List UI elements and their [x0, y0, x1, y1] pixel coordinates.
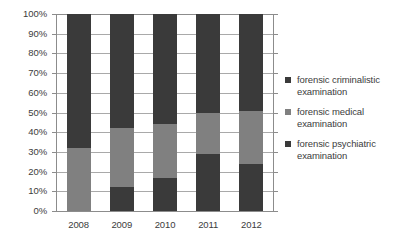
axis-tick [274, 132, 278, 133]
bar-segment [110, 187, 134, 211]
legend-swatch-medical [285, 109, 291, 115]
y-axis-tick-label: 0% [33, 206, 47, 216]
axis-tick [52, 152, 56, 153]
axis-tick [52, 211, 56, 212]
axis-tick [52, 172, 56, 173]
legend-swatch-psychiatric [285, 141, 291, 147]
y-axis-tick-label: 70% [28, 68, 47, 78]
legend-label: forensic medical [297, 106, 401, 118]
x-axis-tick-label: 2011 [198, 220, 218, 230]
y-axis: 0%10%20%30%40%50%60%70%80%90%100% [0, 0, 56, 245]
bar-segment [110, 128, 134, 187]
y-axis-tick-label: 40% [28, 127, 47, 137]
axis-tick [274, 172, 278, 173]
axis-tick [274, 211, 278, 212]
bar-segment [153, 178, 177, 211]
legend-label-continued: examination [297, 86, 401, 98]
axis-tick [52, 132, 56, 133]
bar-group [67, 14, 91, 211]
axis-tick [274, 113, 278, 114]
legend-swatch-criminalistic [285, 77, 291, 83]
legend-entry[interactable]: forensic criminalisticexamination [285, 74, 401, 97]
axis-tick [274, 93, 278, 94]
stacked-bar-chart: 0%10%20%30%40%50%60%70%80%90%100% 200820… [0, 0, 401, 245]
y-axis-tick-label: 60% [28, 88, 47, 98]
y-axis-tick-label: 50% [28, 108, 47, 118]
y-axis-tick-label: 20% [28, 167, 47, 177]
bars-layer [57, 14, 273, 211]
legend-label-continued: examination [297, 118, 401, 130]
bar-segment [196, 154, 220, 211]
bar-segment [67, 14, 91, 148]
bar-segment [153, 14, 177, 124]
bar-segment [239, 14, 263, 111]
axis-tick [52, 73, 56, 74]
x-axis-tick-label: 2012 [241, 220, 262, 230]
plot-area [56, 14, 274, 212]
axis-tick [274, 73, 278, 74]
bar-group [110, 14, 134, 211]
bar-segment [239, 111, 263, 164]
legend-entry[interactable]: forensic medicalexamination [285, 106, 401, 129]
y-axis-tick-label: 30% [28, 147, 47, 157]
axis-tick [274, 53, 278, 54]
legend-label: forensic psychiatric [297, 138, 401, 150]
bar-segment [239, 164, 263, 211]
axis-tick [52, 34, 56, 35]
y-axis-tick-label: 90% [28, 29, 47, 39]
x-axis-tick-label: 2010 [155, 220, 176, 230]
axis-tick [274, 191, 278, 192]
y-axis-tick-label: 100% [23, 9, 47, 19]
legend-label-continued: examination [297, 150, 401, 162]
axis-tick [274, 14, 278, 15]
bar-segment [196, 14, 220, 113]
x-axis: 20082009201020112012 [56, 215, 273, 235]
bar-group [153, 14, 177, 211]
axis-tick [52, 113, 56, 114]
legend-label: forensic criminalistic [297, 74, 401, 86]
bar-segment [110, 14, 134, 128]
bar-segment [153, 124, 177, 177]
bar-group [239, 14, 263, 211]
y-axis-tick-label: 10% [28, 187, 47, 197]
axis-tick [52, 53, 56, 54]
axis-tick [52, 93, 56, 94]
axis-tick [52, 14, 56, 15]
bar-segment [67, 148, 91, 211]
x-axis-tick-label: 2008 [68, 220, 89, 230]
axis-tick [274, 152, 278, 153]
x-axis-tick-label: 2009 [111, 220, 132, 230]
legend-entry[interactable]: forensic psychiatricexamination [285, 138, 401, 161]
y-axis-tick-label: 80% [28, 49, 47, 59]
bar-group [196, 14, 220, 211]
bar-segment [196, 113, 220, 154]
axis-tick [274, 34, 278, 35]
chart-legend: forensic criminalisticexaminationforensi… [285, 74, 401, 170]
axis-tick [52, 191, 56, 192]
